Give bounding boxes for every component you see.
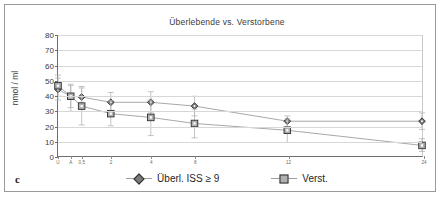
x-axis-tick-label: 12 [286, 160, 291, 165]
y-axis-tick-label: 40 [45, 92, 54, 101]
legend-label-deceased: Verst. [302, 173, 328, 184]
gridline [58, 142, 422, 143]
y-axis-tick-mark [55, 35, 58, 36]
gridline [58, 81, 422, 82]
figure-panel: c Überlebende vs. Verstorbene nmol / ml … [4, 4, 436, 192]
y-axis-tick-mark [55, 127, 58, 128]
y-axis-tick-label: 10 [45, 137, 54, 146]
x-axis-tick-label: 2 [110, 160, 113, 165]
legend-label-survivors: Überl. ISS ≥ 9 [157, 173, 219, 184]
x-axis-tick-mark [111, 156, 112, 159]
gridline [58, 111, 422, 112]
gridline [58, 96, 422, 97]
gridline [58, 35, 422, 36]
gridline [58, 127, 422, 128]
gridline [58, 66, 422, 67]
y-axis-tick-mark [55, 96, 58, 97]
legend-item-survivors[interactable]: Überl. ISS ≥ 9 [126, 173, 219, 184]
y-axis-tick-mark [55, 142, 58, 143]
square-marker-icon [280, 175, 289, 184]
plot-area: 01020304050607080UA0,52481224 [57, 35, 423, 157]
legend-line [126, 178, 152, 179]
legend-line [271, 178, 297, 179]
series-survivors [55, 78, 426, 129]
legend-item-deceased[interactable]: Verst. [271, 173, 328, 184]
x-axis-tick-mark [58, 156, 59, 159]
x-axis-tick-mark [289, 156, 290, 159]
x-axis-tick-mark [82, 156, 83, 159]
gridline [58, 50, 422, 51]
y-axis-tick-label: 50 [45, 76, 54, 85]
y-axis-tick-mark [55, 111, 58, 112]
y-axis-tick-label: 20 [45, 122, 54, 131]
y-axis-tick-label: 80 [45, 31, 54, 40]
x-axis-tick-label: 8 [194, 160, 197, 165]
x-axis-tick-label: U [56, 160, 59, 165]
chart-legend: Überl. ISS ≥ 9 Verst. [5, 173, 444, 184]
x-axis-tick-label: 4 [150, 160, 153, 165]
y-axis-tick-mark [55, 66, 58, 67]
diamond-marker-icon [133, 173, 144, 184]
x-axis-tick-mark [424, 156, 425, 159]
chart-title: Überlebende vs. Verstorbene [5, 17, 444, 27]
y-axis-tick-label: 70 [45, 46, 54, 55]
x-axis-tick-mark [195, 156, 196, 159]
y-axis-tick-label: 0 [50, 153, 54, 162]
x-axis-tick-mark [151, 156, 152, 159]
x-axis-tick-label: 24 [421, 160, 426, 165]
y-axis-tick-mark [55, 50, 58, 51]
x-axis-tick-label: A [69, 160, 72, 165]
y-axis-tick-mark [55, 81, 58, 82]
y-axis-label: nmol / ml [10, 58, 20, 118]
y-axis-tick-label: 60 [45, 61, 54, 70]
x-axis-tick-label: 0,5 [79, 160, 85, 165]
x-axis-tick-mark [71, 156, 72, 159]
y-axis-tick-label: 30 [45, 107, 54, 116]
